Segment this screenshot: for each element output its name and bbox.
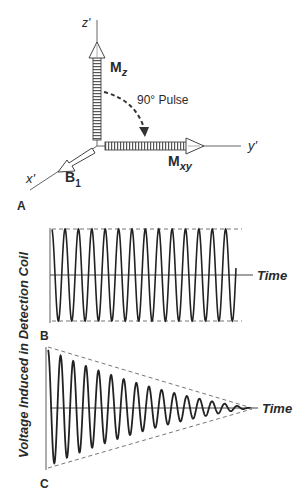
panel-c-envelope-top (48, 347, 252, 408)
y-axis-label: y' (247, 138, 258, 153)
x-axis-label: x' (25, 171, 36, 186)
pulse-label: 90° Pulse (137, 93, 189, 107)
nmr-diagram: z' y' x' Mz Mxy B1 90° Pulse A Voltage I… (0, 0, 304, 503)
panel-a-letter: A (17, 199, 26, 213)
panel-b-constant-signal: Time B (40, 228, 287, 343)
mz-label: Mz (110, 59, 128, 78)
panel-b-time-label: Time (257, 268, 287, 283)
panel-c-waveform (48, 350, 250, 463)
panel-c-time-label: Time (262, 401, 292, 416)
b1-label: B1 (65, 169, 81, 189)
mxy-label: Mxy (168, 153, 193, 172)
panel-c-letter: C (40, 477, 49, 491)
panel-c-decaying-signal: Time C (40, 347, 292, 491)
b1-vector-arrow (58, 148, 95, 172)
panel-b-letter: B (40, 329, 49, 343)
mz-vector-arrow (89, 42, 105, 140)
z-axis-label: z' (81, 16, 91, 30)
y-axis-title: Voltage Induced in Detection Coil (16, 252, 31, 458)
panel-a-coordinate-frame: z' y' x' Mz Mxy B1 90° Pulse A (17, 16, 258, 213)
mxy-vector-arrow (105, 138, 204, 154)
